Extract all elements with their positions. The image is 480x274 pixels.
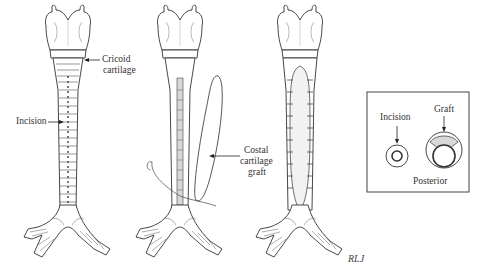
label-cricoid-line1: Cricoid — [102, 54, 131, 65]
label-costal-line3: graft — [248, 167, 266, 178]
label-inset-incision: Incision — [380, 112, 411, 123]
diagram-canvas: RLJ Cricoid cartilage Incision Costal ca… — [0, 0, 480, 274]
panel-1-trachea — [24, 5, 110, 257]
illustration: RLJ — [0, 0, 480, 274]
label-inset-graft: Graft — [434, 104, 454, 115]
label-cricoid-line2: cartilage — [103, 65, 136, 76]
label-incision: Incision — [16, 116, 47, 127]
panel-2-trachea-graft — [136, 5, 240, 257]
label-costal-line1: Costal — [244, 145, 268, 156]
signature: RLJ — [347, 253, 365, 264]
panel-3-trachea-repaired — [256, 5, 342, 257]
label-costal-line2: cartilage — [240, 156, 273, 167]
label-inset-posterior: Posterior — [413, 176, 447, 187]
